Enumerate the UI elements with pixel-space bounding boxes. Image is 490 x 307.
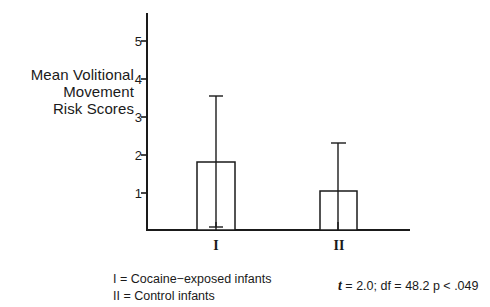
statistics-values: = 2.0; df = 48.2 p < .049	[342, 279, 479, 293]
legend: I = Cocaine−exposed infants II = Control…	[113, 271, 271, 305]
statistics-annotation: t = 2.0; df = 48.2 p < .049	[338, 278, 478, 294]
chart-figure: Mean Volitional Movement Risk Scores 5 4…	[0, 0, 490, 307]
legend-item-2: II = Control infants	[113, 288, 271, 305]
legend-item-1: I = Cocaine−exposed infants	[113, 271, 271, 288]
plot-area	[0, 0, 490, 307]
